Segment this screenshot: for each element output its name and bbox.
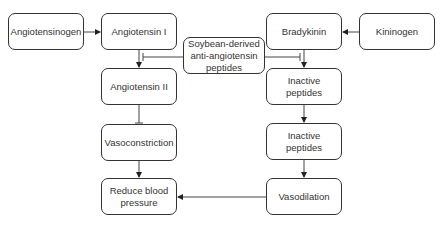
node-angiotensin-i: Angiotensin I [101, 13, 177, 50]
node-kininogen: Kininogen [359, 13, 435, 50]
node-angiotensin-ii: Angiotensin II [101, 68, 177, 105]
node-inactive-peptides-2: Inactive peptides [266, 123, 342, 160]
node-angiotensinogen: Angiotensinogen [8, 13, 84, 50]
node-inactive-peptides-1: Inactive peptides [266, 68, 342, 105]
node-vasoconstriction: Vasoconstriction [101, 124, 177, 161]
node-bradykinin: Bradykinin [266, 13, 342, 50]
node-vasodilation: Vasodilation [266, 178, 342, 215]
node-reduce-blood-pressure: Reduce blood pressure [101, 178, 177, 215]
node-soybean-peptides: Soybean-derived anti-angiotensin peptide… [183, 37, 265, 74]
